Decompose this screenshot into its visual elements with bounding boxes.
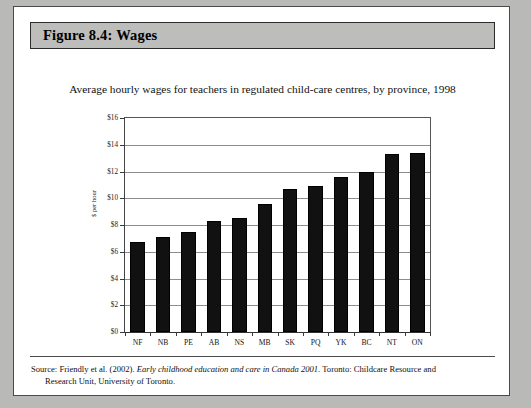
x-axis-tick bbox=[303, 332, 304, 336]
y-axis-tick-label: $6 bbox=[111, 248, 118, 256]
source-continuation: Research Unit, University of Toronto. bbox=[31, 376, 495, 388]
bar bbox=[232, 218, 247, 332]
bar bbox=[308, 186, 323, 332]
x-axis-tick bbox=[405, 332, 406, 336]
x-axis-tick bbox=[252, 332, 253, 336]
x-axis-tick-label: NT bbox=[387, 338, 397, 347]
y-axis-tick-label: $0 bbox=[111, 328, 118, 336]
y-axis-tick-label: $12 bbox=[107, 168, 118, 176]
y-axis-tick-label: $16 bbox=[107, 114, 118, 122]
x-axis-tick-label: AB bbox=[209, 338, 220, 347]
source-note: Source: Friendly et al. (2002). Early ch… bbox=[31, 364, 495, 387]
x-axis-tick bbox=[227, 332, 228, 336]
y-axis-tick bbox=[120, 118, 125, 119]
x-axis-tick-label: SK bbox=[285, 338, 295, 347]
bar bbox=[410, 153, 425, 332]
source-divider bbox=[30, 356, 495, 357]
x-axis-tick-label: BC bbox=[361, 338, 371, 347]
bar bbox=[181, 232, 196, 332]
y-axis-tick bbox=[120, 252, 125, 253]
x-axis-tick-label: ON bbox=[412, 338, 423, 347]
y-axis-tick-label: $8 bbox=[111, 221, 118, 229]
y-axis-tick bbox=[120, 145, 125, 146]
source-title: Early childhood education and care in Ca… bbox=[137, 364, 318, 374]
x-axis-tick-label: NB bbox=[158, 338, 169, 347]
chart-title: Average hourly wages for teachers in reg… bbox=[14, 83, 511, 95]
figure-page: Figure 8.4: Wages Average hourly wages f… bbox=[13, 6, 510, 396]
bar bbox=[359, 172, 374, 333]
y-axis-tick-label: $10 bbox=[107, 194, 118, 202]
y-axis-tick bbox=[120, 225, 125, 226]
y-axis-label: $ per hour bbox=[90, 174, 97, 234]
bar bbox=[283, 189, 298, 332]
plot-area: $0$2$4$6$8$10$12$14$16 NFNBPEABNSMBSKPQY… bbox=[124, 117, 431, 333]
x-axis-tick-label: PE bbox=[184, 338, 193, 347]
bar-chart: Average hourly wages for teachers in reg… bbox=[14, 7, 511, 357]
source-suffix: . Toronto: Childcare Resource and bbox=[318, 364, 436, 374]
x-axis-tick-label: NF bbox=[133, 338, 143, 347]
bar bbox=[130, 242, 145, 332]
x-axis-tick bbox=[278, 332, 279, 336]
x-axis-tick-label: MB bbox=[259, 338, 271, 347]
x-axis-tick bbox=[201, 332, 202, 336]
x-axis-tick bbox=[176, 332, 177, 336]
bar bbox=[258, 204, 273, 332]
source-prefix: Source: Friendly et al. (2002). bbox=[31, 364, 135, 374]
bar bbox=[156, 237, 171, 332]
x-axis-tick bbox=[125, 332, 126, 336]
y-axis-tick-label: $4 bbox=[111, 275, 118, 283]
y-axis-tick-label: $2 bbox=[111, 301, 118, 309]
bar bbox=[385, 154, 400, 332]
y-axis-tick bbox=[120, 198, 125, 199]
y-axis-tick bbox=[120, 305, 125, 306]
y-axis-tick bbox=[120, 279, 125, 280]
x-axis-tick bbox=[150, 332, 151, 336]
y-axis-tick-label: $14 bbox=[107, 141, 118, 149]
x-axis-tick bbox=[379, 332, 380, 336]
bar bbox=[207, 221, 222, 332]
x-axis-tick bbox=[328, 332, 329, 336]
x-axis-tick-label: NS bbox=[235, 338, 245, 347]
y-axis-tick bbox=[120, 172, 125, 173]
x-axis-tick bbox=[430, 332, 431, 336]
x-axis-tick bbox=[354, 332, 355, 336]
x-axis-tick-label: PQ bbox=[311, 338, 321, 347]
gridline bbox=[125, 145, 430, 146]
x-axis-tick-label: YK bbox=[336, 338, 347, 347]
bar bbox=[334, 177, 349, 332]
